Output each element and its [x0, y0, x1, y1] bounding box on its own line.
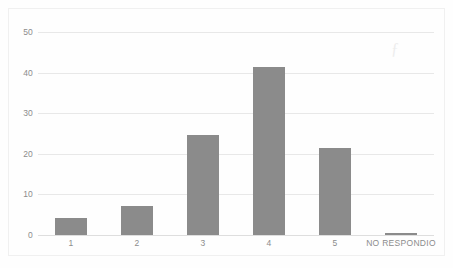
bar-slot-4 — [236, 32, 302, 235]
bar-slot-5 — [302, 32, 368, 235]
x-tick-label-5: 5 — [332, 238, 337, 248]
bar-category-no-respondio[interactable] — [385, 233, 417, 235]
bar-slot-6 — [368, 32, 434, 235]
bar-category-3[interactable] — [187, 135, 219, 235]
y-tick-label-0: 0 — [28, 230, 33, 240]
bar-slot-1 — [38, 32, 104, 235]
x-tick-label-2: 2 — [134, 238, 139, 248]
x-tick-label-1: 1 — [68, 238, 73, 248]
bar-slot-3 — [170, 32, 236, 235]
bar-category-1[interactable] — [55, 218, 87, 235]
bar-category-4[interactable] — [253, 67, 285, 235]
y-tick-label-40: 40 — [23, 68, 33, 78]
x-axis: 1 2 3 4 5 NO RESPONDIO — [38, 238, 434, 254]
y-tick-label-20: 20 — [23, 149, 33, 159]
y-tick-label-30: 30 — [23, 108, 33, 118]
bars-layer — [38, 32, 434, 235]
x-tick-label-4: 4 — [266, 238, 271, 248]
bar-chart: 50 40 30 20 10 0 — [0, 0, 453, 268]
y-tick-label-10: 10 — [23, 189, 33, 199]
bar-category-5[interactable] — [319, 148, 351, 235]
y-tick-label-50: 50 — [23, 27, 33, 37]
y-axis: 50 40 30 20 10 0 — [14, 32, 33, 235]
bar-slot-2 — [104, 32, 170, 235]
x-tick-label-no-respondio: NO RESPONDIO — [366, 238, 436, 248]
x-tick-label-3: 3 — [200, 238, 205, 248]
gridline-0-baseline — [38, 235, 434, 236]
bar-category-2[interactable] — [121, 206, 153, 235]
